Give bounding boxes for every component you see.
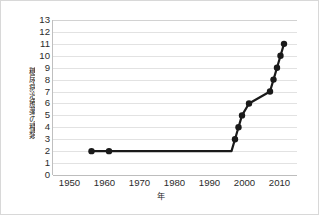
y-tick-label-4: 4 [34,123,50,133]
data-series [53,20,298,175]
x-tick-label-1950: 1950 [50,177,90,188]
x-tick-label-1960: 1960 [85,177,125,188]
y-tick-label-11: 11 [34,39,50,49]
y-tick-label-7: 7 [34,87,50,97]
series-line [92,44,285,151]
y-tick-label-6: 6 [34,99,50,109]
x-tick-label-2000: 2000 [225,177,265,188]
x-axis-title: 年 [1,192,319,201]
x-tick-label-1980: 1980 [155,177,195,188]
x-tick-label-1970: 1970 [120,177,160,188]
y-tick-label-10: 10 [34,51,50,61]
y-tick-label-13: 13 [34,15,50,25]
y-tick-label-2: 2 [34,146,50,156]
data-point-marker [235,124,241,130]
y-tick-label-0: 0 [34,170,50,180]
data-point-marker [239,112,245,118]
y-tick-label-9: 9 [34,63,50,73]
x-axis-tick-labels: 1950196019701980199020002010 [52,177,297,191]
y-tick-label-3: 3 [34,134,50,144]
y-tick-label-1: 1 [34,158,50,168]
data-point-marker [246,100,252,106]
y-tick-label-5: 5 [34,111,50,121]
data-point-marker [274,64,280,70]
plot-area [52,20,297,175]
x-tick-label-2010: 2010 [260,177,300,188]
data-point-marker [267,88,273,94]
gridline-y-0 [53,175,297,176]
y-tick-label-8: 8 [34,75,50,85]
data-point-marker [106,148,112,154]
data-point-marker [232,136,238,142]
data-point-marker [277,53,283,59]
y-axis-title: 糖尿病治療薬の種類 [21,45,35,160]
chart-figure: 糖尿病治療薬の種類 012345678910111213 19501960197… [0,0,319,215]
y-tick-label-12: 12 [34,27,50,37]
data-point-marker [270,76,276,82]
y-axis-tick-labels: 012345678910111213 [34,20,50,175]
x-tick-label-1990: 1990 [190,177,230,188]
data-point-marker [88,148,94,154]
data-point-marker [281,41,287,47]
